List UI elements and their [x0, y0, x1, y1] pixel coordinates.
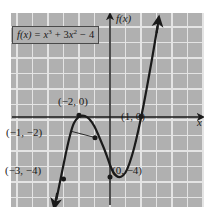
- function-graph-figure: f(x)=x3+3x2−4 f(x) x (−2, 0) (1, 0) (−1,…: [0, 0, 213, 220]
- y-axis-label: f(x): [116, 13, 131, 24]
- curve-tail-arrow-up: [157, 22, 159, 33]
- leader-line-inflection: [72, 132, 95, 138]
- x-axis-label: x: [197, 117, 202, 128]
- point-label-local-max: (−2, 0): [58, 96, 88, 107]
- equation-label: f(x)=x3+3x2−4: [12, 26, 99, 44]
- point-label-x-intercept: (1, 0): [121, 111, 145, 122]
- equation-plus: +: [55, 29, 61, 40]
- point-marker-left: [61, 177, 66, 182]
- point-label-left: (−3, −4): [5, 165, 41, 176]
- equation-minus: −: [80, 29, 86, 40]
- equation-term2-exponent: 2: [74, 28, 78, 36]
- equation-term1-exponent: 3: [48, 28, 52, 36]
- curve-tail-arrow-down: [55, 193, 57, 203]
- point-label-inflection: (−1, −2): [6, 127, 42, 138]
- point-marker-local-max: [77, 113, 82, 118]
- equation-equals: =: [35, 29, 41, 40]
- point-marker-inflection: [93, 135, 98, 140]
- equation-function-name: f(x): [17, 29, 32, 40]
- equation-constant: 4: [89, 29, 94, 40]
- point-label-local-min: (0, −4): [112, 165, 142, 176]
